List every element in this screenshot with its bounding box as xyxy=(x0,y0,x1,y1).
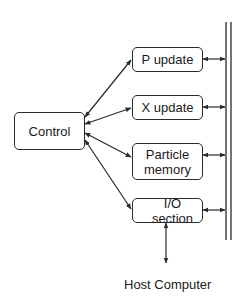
control-arrows xyxy=(85,60,131,209)
particle-memory-box: Particle memory xyxy=(132,143,203,180)
control-label: Control xyxy=(29,124,71,139)
bus-lines xyxy=(226,22,231,240)
control-box: Control xyxy=(14,112,85,150)
io-section-box: I/O section xyxy=(132,198,203,223)
arrow-control-p-update xyxy=(85,60,131,117)
host-computer-label: Host Computer xyxy=(124,277,211,292)
p-update-box: P update xyxy=(132,47,203,72)
x-update-label: X update xyxy=(141,100,193,115)
arrow-control-x-update xyxy=(85,108,131,124)
arrow-control-io-section xyxy=(85,140,131,209)
diagram-wires xyxy=(0,0,248,302)
particle-memory-label: Particle memory xyxy=(144,147,191,177)
x-update-box: X update xyxy=(132,95,203,120)
io-section-label: I/O section xyxy=(143,198,202,223)
bus-arrows xyxy=(203,59,225,210)
arrow-control-particle-memory xyxy=(85,133,131,157)
p-update-label: P update xyxy=(142,52,194,67)
